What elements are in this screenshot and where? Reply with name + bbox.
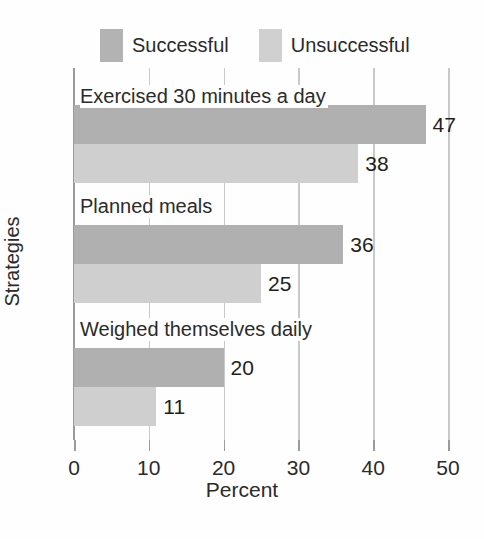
x-tick-label-30: 30: [287, 456, 310, 480]
bar-successful-0: [74, 105, 426, 144]
x-tick-50: [448, 440, 450, 451]
x-tick-0: [74, 440, 76, 451]
bar-value-label: 25: [268, 272, 291, 296]
bar-unsuccessful-1: [74, 264, 261, 303]
category-label: Planned meals: [80, 195, 214, 218]
bar-value-label: 11: [163, 395, 185, 419]
bar-value-label: 20: [231, 356, 254, 380]
x-tick-label-0: 0: [68, 456, 80, 480]
x-tick-label-40: 40: [362, 456, 385, 480]
x-tick-30: [298, 440, 300, 451]
unsuccessful-swatch-icon: [259, 29, 282, 62]
plot-area: 01020304050Exercised 30 minutes a day473…: [74, 68, 448, 440]
x-tick-label-10: 10: [137, 456, 160, 480]
y-axis-title: Strategies: [1, 162, 24, 362]
bar-value-label: 38: [365, 152, 388, 176]
bar-chart: Successful Unsuccessful 01020304050Exerc…: [0, 0, 484, 539]
bar-value-label: 36: [350, 233, 373, 257]
x-tick-20: [224, 440, 226, 451]
x-tick-label-20: 20: [212, 456, 235, 480]
chart-legend: Successful Unsuccessful: [100, 28, 410, 62]
legend-entry-unsuccessful: Unsuccessful: [259, 29, 410, 62]
legend-label-unsuccessful: Unsuccessful: [291, 35, 410, 55]
bar-successful-1: [74, 225, 343, 264]
bar-unsuccessful-2: [74, 387, 156, 426]
x-tick-label-50: 50: [436, 456, 459, 480]
bar-value-label: 47: [433, 113, 456, 137]
successful-swatch-icon: [100, 29, 123, 62]
bar-successful-2: [74, 348, 224, 387]
category-label: Exercised 30 minutes a day: [80, 85, 328, 108]
x-tick-40: [373, 440, 375, 451]
x-tick-10: [149, 440, 151, 451]
legend-entry-successful: Successful: [100, 29, 229, 62]
legend-label-successful: Successful: [132, 35, 229, 55]
category-label: Weighed themselves daily: [80, 318, 314, 341]
x-axis-title: Percent: [0, 478, 484, 502]
bar-unsuccessful-0: [74, 144, 358, 183]
